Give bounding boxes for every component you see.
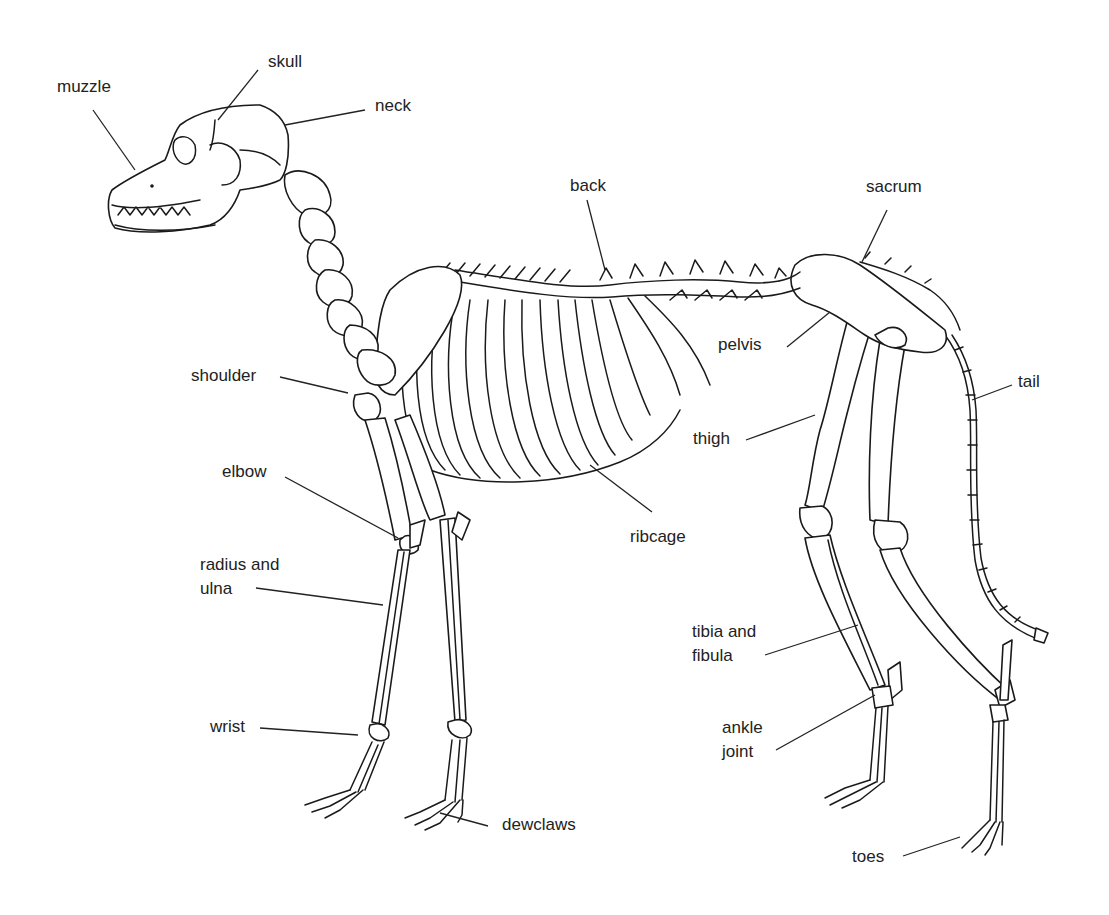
label-neck: neck [375, 94, 411, 118]
label-radius-ulna: radius and ulna [200, 553, 279, 601]
neck-vertebrae [284, 171, 395, 385]
skull-bone [108, 105, 288, 232]
label-wrist: wrist [210, 715, 245, 739]
label-dewclaws: dewclaws [502, 813, 576, 837]
leader-elbow [285, 477, 398, 538]
label-muzzle: muzzle [57, 75, 111, 99]
leader-tail [972, 385, 1012, 400]
label-sacrum: sacrum [866, 175, 922, 199]
label-thigh: thigh [693, 427, 730, 451]
label-tail: tail [1018, 370, 1040, 394]
label-tibia-fibula-line1: tibia and [692, 620, 756, 644]
label-tibia-fibula-line2: fibula [692, 644, 756, 668]
leader-neck [285, 110, 365, 125]
label-shoulder: shoulder [191, 364, 256, 388]
leader-thigh [746, 415, 815, 440]
leader-ribcage [590, 465, 652, 512]
label-ribcage: ribcage [630, 525, 686, 549]
leader-muzzle [93, 110, 135, 170]
label-ankle-joint: ankle joint [722, 716, 763, 764]
foreleg-near [305, 267, 462, 818]
leader-wrist [260, 728, 358, 735]
label-tibia-fibula: tibia and fibula [692, 620, 756, 668]
leader-toes [903, 837, 960, 856]
label-pelvis: pelvis [718, 333, 761, 357]
label-elbow: elbow [222, 460, 266, 484]
label-toes: toes [852, 845, 884, 869]
skeleton-drawing [0, 0, 1109, 915]
label-radius-ulna-line1: radius and [200, 553, 279, 577]
leader-pelvis [787, 312, 830, 347]
label-ankle-line2: joint [722, 740, 763, 764]
label-skull: skull [268, 50, 302, 74]
leader-sacrum [862, 210, 887, 262]
leader-dewclaws [440, 813, 488, 826]
label-ankle-line1: ankle [722, 716, 763, 740]
leader-shoulder [280, 377, 348, 393]
hind-leg-far [869, 340, 1015, 855]
pelvis-bone [791, 254, 946, 352]
leader-ankle [776, 695, 875, 750]
label-radius-ulna-line2: ulna [200, 577, 279, 601]
label-back: back [570, 174, 606, 198]
leader-back [587, 200, 605, 270]
dog-skeleton-diagram: muzzle skull neck back sacrum pelvis tai… [0, 0, 1109, 915]
